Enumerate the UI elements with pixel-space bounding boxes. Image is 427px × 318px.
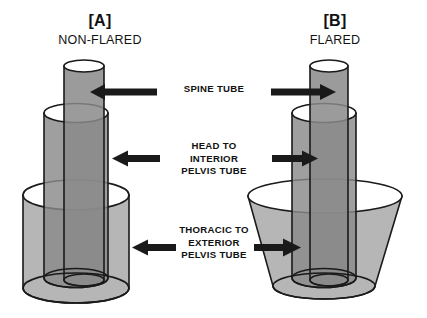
panel-a-title: [A] [40,12,160,30]
head-to-interior-pelvis-tube-callout-label: HEAD TO INTERIOR PELVIS TUBE [158,140,270,178]
head-interior-pelvis-left-arrow [112,151,160,167]
panel-a-subtitle: NON-FLARED [25,33,175,47]
panel-a-graphic [23,60,129,303]
panel-b-subtitle: FLARED [285,33,385,47]
spine-tube-callout-label: SPINE TUBE [162,83,266,96]
figure-canvas: [A] NON-FLARED [B] FLARED SPINE TUBE HEA… [0,0,427,318]
thoracic-to-exterior-pelvis-tube-callout-label: THORACIC TO EXTERIOR PELVIS TUBE [152,224,276,262]
panel-b-title: [B] [290,12,380,30]
